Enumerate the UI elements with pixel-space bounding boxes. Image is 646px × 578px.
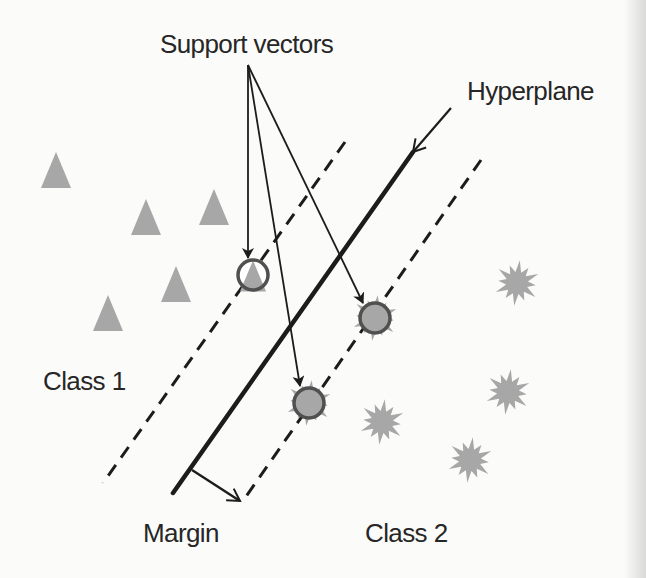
support-vector-circle-icon	[360, 303, 390, 333]
class-1-points	[41, 152, 229, 331]
triangle-point-icon	[131, 199, 161, 235]
support-vector-pointer-arrows	[248, 65, 363, 386]
support-vector-marker	[354, 295, 396, 341]
support-vector-marker	[238, 260, 268, 292]
hyperplane-pointer-arrow	[413, 108, 451, 152]
hyperplane-label: Hyperplane	[467, 76, 594, 106]
margin-label: Margin	[143, 518, 219, 548]
star-point-icon	[449, 437, 491, 483]
star-point-icon	[361, 399, 403, 445]
margin-pointer-arrow	[192, 470, 240, 501]
triangle-point-icon	[161, 266, 191, 302]
triangle-point-icon	[93, 295, 123, 331]
support-vector-circle-icon	[294, 388, 324, 418]
triangle-point-icon	[41, 152, 71, 188]
support-vector-arrow	[248, 65, 300, 386]
support-vectors-label: Support vectors	[160, 29, 334, 59]
star-point-icon	[496, 260, 538, 306]
star-point-icon	[487, 369, 529, 415]
left-margin-line	[103, 142, 345, 483]
class-1-label: Class 1	[43, 366, 126, 396]
svm-diagram: Support vectors Hyperplane Class 1 Margi…	[0, 0, 646, 578]
margin-lines	[103, 142, 481, 498]
class-2-label: Class 2	[365, 518, 448, 548]
triangle-point-icon	[199, 189, 229, 225]
